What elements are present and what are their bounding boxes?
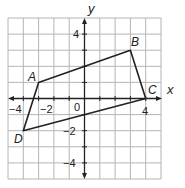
y-axis-label: y (87, 1, 96, 16)
vertex-label-D: D (14, 132, 23, 146)
vertex-label-A: A (27, 70, 36, 84)
x-axis-arrow-left-icon (8, 96, 14, 101)
y-tick-label: 4 (73, 28, 79, 40)
y-tick-label: −4 (63, 157, 76, 169)
x-tick-label: −4 (9, 103, 22, 115)
vertex-label-C: C (148, 83, 157, 97)
x-axis-label: x (166, 82, 174, 97)
y-axis-arrow-down-icon (82, 173, 87, 179)
vertex-label-B: B (131, 35, 139, 49)
x-tick-label: 0 (74, 101, 80, 113)
x-tick-label: −2 (40, 103, 53, 115)
x-tick-label: 4 (142, 105, 148, 117)
coordinate-plane: x y −4 −2 0 4 4 −2 −4 A B C D (0, 0, 185, 188)
y-tick-label: −2 (63, 125, 76, 137)
y-axis-arrow-up-icon (82, 18, 87, 24)
